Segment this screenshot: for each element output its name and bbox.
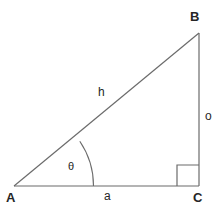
side-label-hypotenuse: h [98, 86, 105, 98]
vertex-label-a: A [6, 191, 15, 204]
right-angle-marker [177, 165, 199, 186]
triangle-svg-canvas [0, 0, 224, 212]
side-label-opposite: o [205, 110, 212, 122]
hypotenuse-line [14, 33, 199, 186]
triangle-diagram: A B C h o a θ [0, 0, 224, 212]
vertex-label-c: C [193, 191, 202, 204]
side-label-adjacent: a [104, 190, 111, 202]
vertex-label-b: B [190, 10, 199, 23]
angle-arc-theta [80, 141, 94, 186]
angle-label-theta: θ [68, 161, 74, 172]
